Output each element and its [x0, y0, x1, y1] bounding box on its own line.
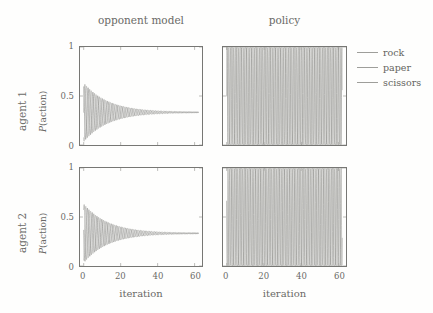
y-tick-label-row1-0: 0 — [52, 141, 74, 151]
y-axis-title-row-2: P(action) — [38, 213, 48, 254]
y-tick-label-row1-0.5: 0.5 — [52, 91, 74, 101]
panel-tick-marks — [80, 168, 202, 266]
plot-panel-agent1-opponent-model — [79, 46, 203, 146]
clipped-top-caption — [66, 0, 366, 3]
x-tick-label-left-0: 0 — [72, 271, 94, 281]
series-line-paper — [84, 208, 199, 261]
legend: rock paper scissors — [357, 46, 431, 91]
y-tick-label-row2-0.5: 0.5 — [52, 212, 74, 222]
row-label-agent-1: agent 1 — [16, 91, 28, 131]
x-tick-label-left-20: 20 — [109, 271, 131, 281]
panel-tick-marks — [80, 47, 202, 145]
y-axis-title-prefix-row-2: P — [38, 248, 48, 254]
column-title-opponent-model: opponent model — [79, 14, 203, 26]
y-tick-label-row2-0: 0 — [52, 262, 74, 272]
x-axis-title-right: iteration — [222, 288, 347, 299]
y-axis-title-suffix-row-2: (action) — [38, 213, 48, 248]
y-tick-label-row1-1: 1 — [52, 41, 74, 51]
legend-swatch-rock — [357, 52, 378, 54]
x-tick-label-right-40: 40 — [291, 271, 313, 281]
x-tick-label-right-0: 0 — [215, 271, 237, 281]
row-label-agent-2: agent 2 — [16, 213, 28, 253]
legend-swatch-paper — [357, 67, 378, 69]
legend-item-scissors: scissors — [357, 76, 431, 89]
legend-label-rock: rock — [383, 47, 404, 58]
legend-label-scissors: scissors — [383, 77, 421, 88]
plot-panel-agent2-policy — [222, 167, 347, 267]
y-axis-title-suffix-row-1: (action) — [38, 91, 48, 126]
column-title-policy: policy — [222, 14, 347, 26]
y-tick-label-row2-1: 1 — [52, 162, 74, 172]
legend-swatch-scissors — [357, 82, 378, 84]
legend-item-rock: rock — [357, 46, 431, 59]
x-tick-label-left-60: 60 — [184, 271, 206, 281]
figure-root: opponent model policy agent 1 agent 2 P(… — [0, 0, 433, 313]
plot-svg-agent2-opponent-model — [80, 168, 202, 266]
plot-svg-agent1-opponent-model — [80, 47, 202, 145]
plot-svg-agent2-policy — [223, 168, 346, 266]
y-axis-title-row-1: P(action) — [38, 91, 48, 132]
x-axis-title-left: iteration — [79, 288, 203, 299]
y-axis-title-prefix-row-1: P — [38, 126, 48, 132]
x-tick-label-right-60: 60 — [328, 271, 350, 281]
legend-label-paper: paper — [383, 62, 411, 73]
legend-item-paper: paper — [357, 61, 431, 74]
series-line-rock — [84, 84, 199, 137]
x-tick-label-left-40: 40 — [147, 271, 169, 281]
x-tick-label-right-20: 20 — [253, 271, 275, 281]
plot-svg-agent1-policy — [223, 47, 346, 145]
plot-panel-agent2-opponent-model — [79, 167, 203, 267]
plot-panel-agent1-policy — [222, 46, 347, 146]
